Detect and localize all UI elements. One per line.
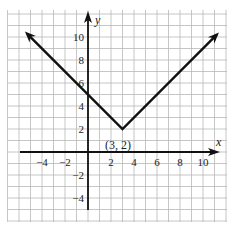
- grid-lines: [8, 10, 228, 222]
- svg-text:−4: −4: [72, 192, 84, 204]
- svg-text:2: 2: [108, 156, 114, 168]
- svg-text:10: 10: [73, 31, 85, 43]
- coordinate-graph: −4−2246810108642−2−4 x y (3, 2): [0, 0, 246, 232]
- svg-text:−2: −2: [59, 156, 71, 168]
- svg-text:−4: −4: [36, 156, 48, 168]
- svg-text:4: 4: [131, 156, 137, 168]
- svg-text:10: 10: [198, 156, 210, 168]
- axes: [20, 11, 220, 210]
- svg-text:8: 8: [177, 156, 183, 168]
- svg-text:4: 4: [79, 100, 85, 112]
- svg-text:2: 2: [79, 123, 85, 135]
- vertex-label: (3, 2): [105, 138, 131, 152]
- svg-text:6: 6: [154, 156, 160, 168]
- y-axis-label: y: [94, 13, 101, 27]
- svg-text:−2: −2: [72, 169, 84, 181]
- svg-text:8: 8: [79, 54, 85, 66]
- x-axis-label: x: [215, 135, 222, 149]
- plot-line: [25, 31, 219, 129]
